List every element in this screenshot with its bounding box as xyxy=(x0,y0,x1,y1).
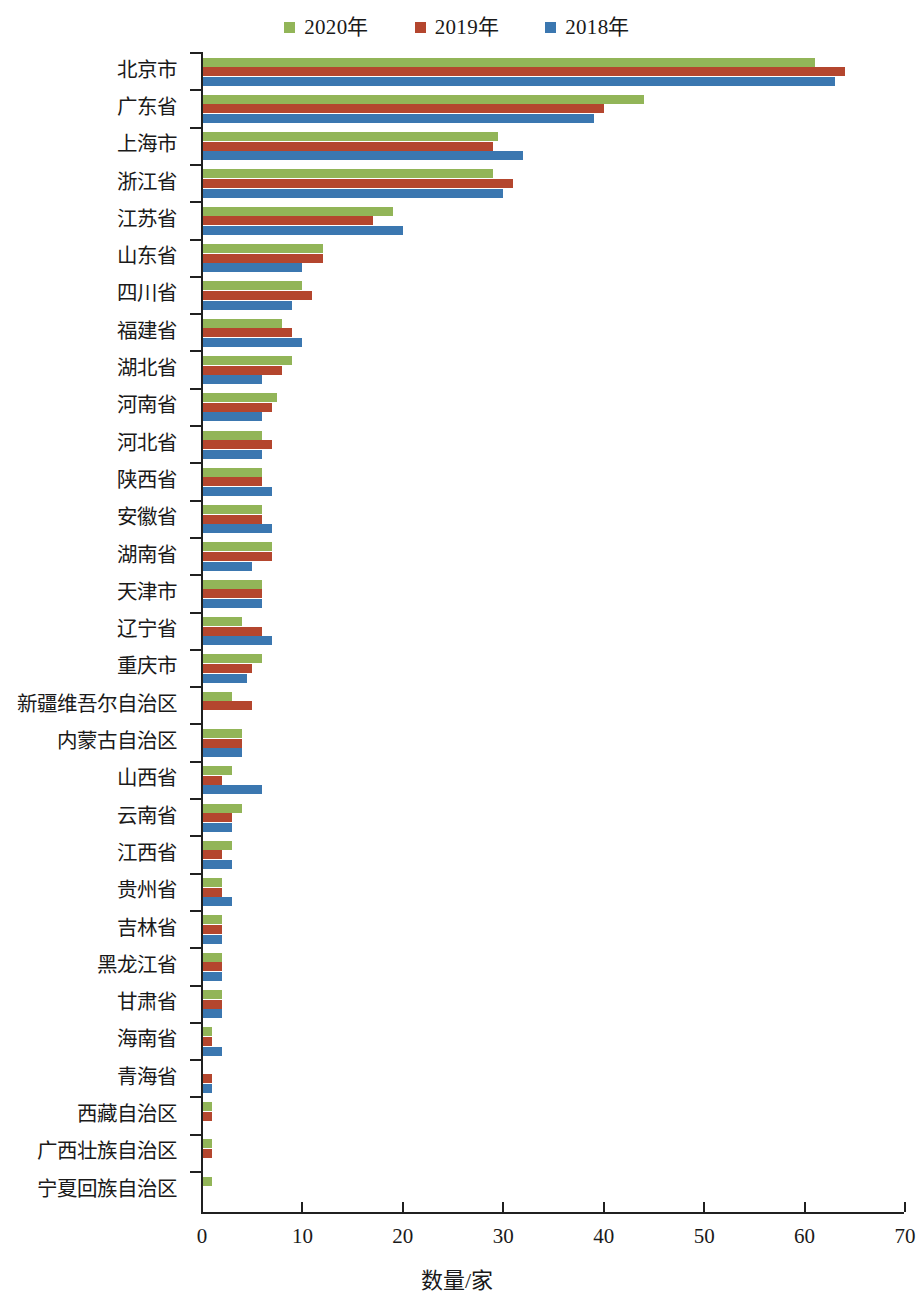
x-axis-tick-label: 60 xyxy=(794,1224,815,1249)
category-label: 山西省 xyxy=(0,768,185,789)
bar-y2018 xyxy=(202,226,403,235)
y-axis-tick xyxy=(190,537,201,539)
bar-y2018 xyxy=(202,823,232,832)
category-label: 湖北省 xyxy=(0,358,185,379)
bar-y2020 xyxy=(202,431,262,440)
bar-y2018 xyxy=(202,860,232,869)
bar-y2019 xyxy=(202,701,252,710)
bar-y2018 xyxy=(202,189,503,198)
bar-y2020 xyxy=(202,132,498,141)
bar-y2018 xyxy=(202,263,302,272)
bar-y2019 xyxy=(202,179,513,188)
y-axis-tick xyxy=(190,761,201,763)
category-label: 吉林省 xyxy=(0,918,185,939)
bar-y2018 xyxy=(202,674,247,683)
bar-y2020 xyxy=(202,953,222,962)
bar-y2020 xyxy=(202,542,272,551)
category-label: 江苏省 xyxy=(0,209,185,230)
bar-y2019 xyxy=(202,1037,212,1046)
category-label: 浙江省 xyxy=(0,172,185,193)
y-axis-tick xyxy=(190,985,201,987)
bar-y2019 xyxy=(202,739,242,748)
bar-y2018 xyxy=(202,897,232,906)
bar-y2019 xyxy=(202,1112,212,1121)
y-axis-tick xyxy=(190,1022,201,1024)
y-axis-tick xyxy=(190,649,201,651)
bar-y2019 xyxy=(202,888,222,897)
category-label: 山东省 xyxy=(0,246,185,267)
y-axis-tick xyxy=(190,500,201,502)
legend-item-y2018: 2018年 xyxy=(545,17,630,38)
bar-y2019 xyxy=(202,403,272,412)
y-axis-tick xyxy=(190,835,201,837)
bar-y2020 xyxy=(202,319,282,328)
bar-y2020 xyxy=(202,393,277,402)
bar-y2019 xyxy=(202,104,604,113)
bar-y2019 xyxy=(202,813,232,822)
category-label: 广东省 xyxy=(0,97,185,118)
category-label: 江西省 xyxy=(0,843,185,864)
bar-y2018 xyxy=(202,412,262,421)
bar-y2019 xyxy=(202,1000,222,1009)
bar-y2020 xyxy=(202,729,242,738)
x-axis-tick-label: 40 xyxy=(593,1224,614,1249)
category-label: 天津市 xyxy=(0,582,185,603)
bar-y2020 xyxy=(202,1177,212,1186)
bar-y2020 xyxy=(202,468,262,477)
bar-y2020 xyxy=(202,841,232,850)
y-axis-tick xyxy=(190,574,201,576)
bar-y2020 xyxy=(202,1102,212,1111)
bar-y2019 xyxy=(202,1149,212,1158)
category-label: 云南省 xyxy=(0,806,185,827)
y-axis-tick xyxy=(190,686,201,688)
bar-y2020 xyxy=(202,692,232,701)
bar-y2020 xyxy=(202,244,323,253)
bar-y2020 xyxy=(202,207,393,216)
bar-y2020 xyxy=(202,281,302,290)
bar-y2018 xyxy=(202,1009,222,1018)
bar-chart: 北京市广东省上海市浙江省江苏省山东省四川省福建省湖北省河南省河北省陕西省安徽省湖… xyxy=(0,44,914,1280)
bar-y2018 xyxy=(202,785,262,794)
y-axis-tick xyxy=(190,425,201,427)
y-axis-tick xyxy=(190,462,201,464)
bar-y2018 xyxy=(202,301,292,310)
y-axis-tick xyxy=(190,127,201,129)
category-label: 陕西省 xyxy=(0,470,185,491)
x-axis-line xyxy=(201,1212,904,1214)
y-axis-tick xyxy=(190,276,201,278)
category-label: 上海市 xyxy=(0,134,185,155)
category-label: 北京市 xyxy=(0,60,185,81)
y-axis-tick xyxy=(190,1096,201,1098)
category-label: 辽宁省 xyxy=(0,619,185,640)
category-label: 青海省 xyxy=(0,1067,185,1088)
y-axis-tick xyxy=(190,612,201,614)
bar-y2020 xyxy=(202,58,815,67)
legend-item-y2019: 2019年 xyxy=(415,17,500,38)
bar-y2018 xyxy=(202,338,302,347)
bar-y2020 xyxy=(202,505,262,514)
x-axis-tick-label: 70 xyxy=(895,1224,916,1249)
bar-y2019 xyxy=(202,328,292,337)
bar-y2018 xyxy=(202,636,272,645)
bar-y2020 xyxy=(202,1139,212,1148)
bar-y2018 xyxy=(202,1084,212,1093)
y-axis-tick xyxy=(190,388,201,390)
bar-y2019 xyxy=(202,291,312,300)
category-label: 安徽省 xyxy=(0,507,185,528)
y-axis-tick xyxy=(190,89,201,91)
x-axis-tick-label: 10 xyxy=(292,1224,313,1249)
y-axis-tick xyxy=(190,1134,201,1136)
y-axis-tick xyxy=(190,873,201,875)
category-label: 重庆市 xyxy=(0,656,185,677)
x-axis-tick xyxy=(502,1202,504,1212)
legend-label: 2019年 xyxy=(435,17,500,38)
bar-y2020 xyxy=(202,617,242,626)
x-axis-tick xyxy=(603,1202,605,1212)
bar-y2019 xyxy=(202,67,845,76)
bar-y2020 xyxy=(202,1027,212,1036)
y-axis-tick xyxy=(190,52,201,54)
bar-y2019 xyxy=(202,254,323,263)
x-axis-tick-label: 0 xyxy=(197,1224,208,1249)
bar-y2019 xyxy=(202,515,262,524)
legend-swatch-icon xyxy=(415,22,426,33)
